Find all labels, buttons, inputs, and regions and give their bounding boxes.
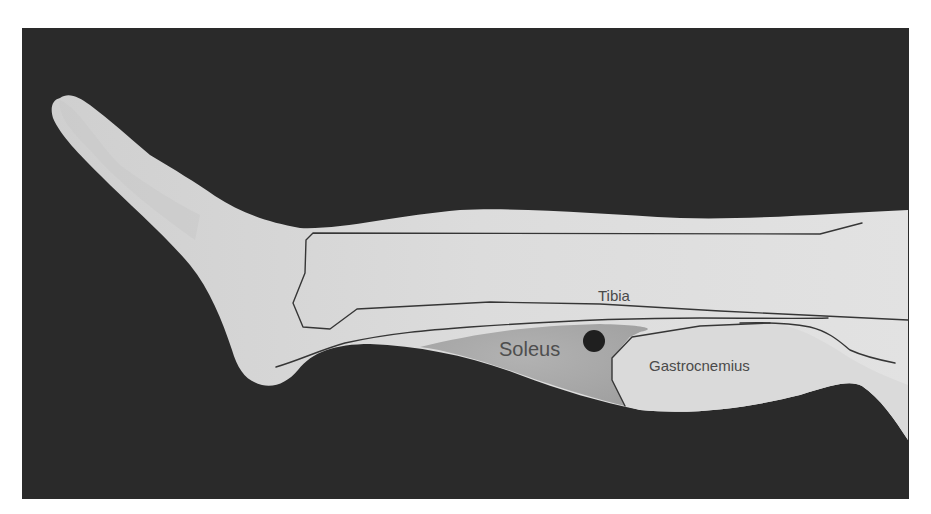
leg-photo	[0, 0, 931, 514]
gastrocnemius-label: Gastrocnemius	[649, 358, 750, 373]
acupoint-marker	[583, 330, 605, 352]
tibia-label: Tibia	[598, 288, 630, 303]
soleus-label: Soleus	[499, 339, 560, 359]
